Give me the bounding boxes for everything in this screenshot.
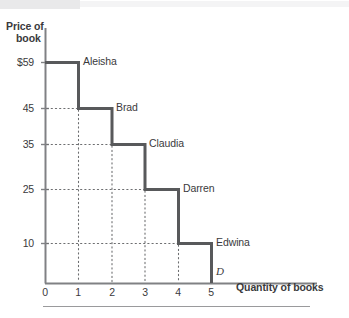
x-tick-label-0: 0 (36, 286, 54, 298)
y-axis-title-line1: Price of (6, 20, 44, 32)
x-tick-label-5: 5 (202, 286, 220, 298)
step-label-aleisha: Aleisha (83, 55, 117, 67)
y-axis-title-line2: book (6, 32, 64, 44)
y-axis-title: Price of book (6, 20, 64, 44)
x-axis-title: Quantity of books (236, 281, 324, 293)
x-tick-label-3: 3 (136, 286, 154, 298)
y-tick-label-25: 25 (0, 183, 34, 195)
x-tick-label-1: 1 (69, 286, 87, 298)
step-label-darren: Darren (183, 182, 215, 194)
y-tick-label-45: 45 (0, 102, 34, 114)
x-tick-label-4: 4 (169, 286, 187, 298)
x-dropline-dotted (79, 110, 179, 282)
demand-step-curve (45, 63, 212, 284)
y-tick-label-59: $59 (0, 56, 34, 68)
y-tick-label-35: 35 (0, 138, 34, 150)
demand-curve-label: D (216, 265, 224, 277)
step-label-brad: Brad (116, 101, 138, 113)
step-label-edwina: Edwina (216, 236, 250, 248)
step-label-claudia: Claudia (149, 137, 184, 149)
demand-curve-figure: Price of book Quantity of books $59 45 3… (0, 0, 349, 318)
chart-canvas (0, 0, 349, 318)
x-tick-label-2: 2 (103, 286, 121, 298)
y-tick-label-10: 10 (0, 237, 34, 249)
